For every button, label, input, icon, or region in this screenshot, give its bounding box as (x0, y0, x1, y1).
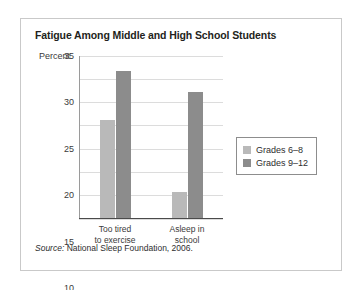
y-tick-label: 35 (64, 51, 74, 61)
legend: Grades 6–8 Grades 9–12 (236, 137, 317, 175)
legend-swatch-icon (243, 159, 251, 167)
legend-item: Grades 6–8 (243, 143, 308, 156)
source-note: Source: National Sleep Foundation, 2006. (35, 243, 193, 253)
x-tick-label: Asleep inschool (170, 224, 205, 245)
gridline: 35 (79, 56, 223, 57)
legend-swatch-icon (243, 146, 251, 154)
gridline: 30 (79, 79, 223, 80)
y-tick-label: 25 (64, 144, 74, 154)
bar (100, 120, 115, 218)
legend-item: Grades 9–12 (243, 156, 308, 169)
y-tick-label: 30 (64, 97, 74, 107)
bar (188, 92, 203, 218)
page-title: Fatigue Among Middle and High School Stu… (35, 29, 276, 41)
legend-label: Grades 9–12 (256, 158, 308, 168)
bar (116, 71, 131, 218)
y-axis (79, 56, 80, 219)
bar (172, 192, 187, 218)
y-tick-label: 10 (64, 283, 74, 290)
plot-inner: 05101520253035Too tiredto exerciseAsleep… (79, 56, 223, 219)
chart-card: Fatigue Among Middle and High School Stu… (20, 18, 342, 271)
legend-label: Grades 6–8 (256, 145, 303, 155)
x-tick-label: Too tiredto exercise (94, 224, 135, 245)
y-tick-label: 20 (64, 190, 74, 200)
source-text: National Sleep Foundation, 2006. (67, 243, 193, 253)
source-label: Source: (35, 243, 64, 253)
plot-area: 05101520253035Too tiredto exerciseAsleep… (79, 56, 223, 219)
